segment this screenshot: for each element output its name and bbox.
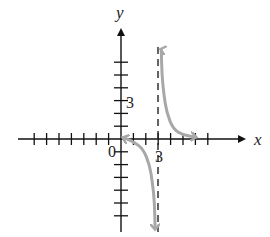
x-tick-label-3: 3: [155, 148, 163, 165]
curve-right-branch: [161, 49, 195, 137]
graph-figure: y x 0 3 3: [0, 0, 270, 237]
y-axis-label: y: [114, 3, 124, 22]
x-axis-label: x: [253, 130, 262, 149]
y-tick-label-3: 3: [126, 94, 134, 111]
origin-label: 0: [108, 143, 116, 160]
graph-canvas: y x 0 3 3: [0, 0, 270, 237]
curve-left-branch: [124, 138, 156, 229]
